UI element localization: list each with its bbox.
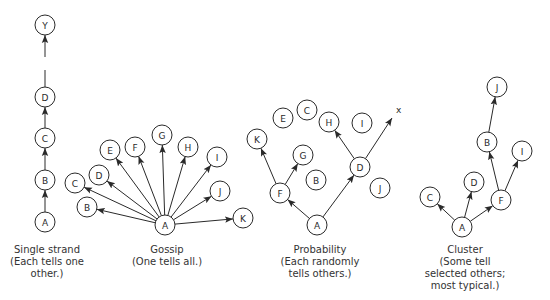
arrow-edge-A-to-F bbox=[470, 206, 493, 222]
node-label: C bbox=[42, 134, 48, 144]
node-label: I bbox=[521, 147, 524, 157]
node-label: B bbox=[313, 176, 319, 186]
arrow-edge-D-to-H bbox=[335, 130, 355, 159]
node-c: C bbox=[420, 187, 440, 207]
caption-line: Single strand bbox=[10, 244, 84, 256]
caption-line: tells others.) bbox=[281, 268, 360, 280]
caption-single-strand: Single strand(Each tells oneother.) bbox=[10, 244, 84, 280]
node-label: F bbox=[277, 189, 282, 199]
node-j: J bbox=[210, 181, 230, 201]
node-d: D bbox=[350, 157, 370, 177]
node-label: D bbox=[42, 93, 49, 103]
node-i: I bbox=[207, 147, 227, 167]
caption-line: selected others; bbox=[425, 268, 506, 280]
node-k: K bbox=[247, 129, 267, 149]
node-label: D bbox=[471, 178, 478, 188]
node-f: F bbox=[491, 190, 511, 210]
node-label: B bbox=[42, 176, 48, 186]
caption-line: other.) bbox=[10, 268, 84, 280]
caption-probability: Probability(Each randomlytells others.) bbox=[281, 244, 360, 280]
node-b: B bbox=[477, 132, 497, 152]
node-f: F bbox=[125, 137, 145, 157]
node-b: B bbox=[35, 170, 55, 190]
node-j: J bbox=[487, 77, 507, 97]
node-label: D bbox=[96, 171, 103, 181]
node-d: D bbox=[464, 172, 484, 192]
arrow-edge-A-to-D bbox=[323, 175, 354, 217]
node-label: H bbox=[326, 118, 333, 128]
arrow-edge-A-to-J bbox=[174, 196, 212, 219]
node-g: G bbox=[152, 125, 172, 145]
node-label: C bbox=[427, 193, 433, 203]
node-j: J bbox=[370, 178, 390, 198]
node-f: F bbox=[270, 183, 290, 203]
caption-line: (One tells all.) bbox=[132, 256, 202, 268]
arrow-edge-F-to-B bbox=[489, 152, 498, 191]
node-e: E bbox=[273, 108, 293, 128]
node-label: J bbox=[495, 83, 499, 93]
arrow-edge-F-to-I bbox=[505, 160, 518, 191]
node-h: H bbox=[319, 112, 339, 132]
caption-line: Gossip bbox=[132, 244, 202, 256]
arrow-edge-A-to-E bbox=[116, 158, 159, 217]
node-h: H bbox=[178, 137, 198, 157]
arrow-edge-A-to-F bbox=[288, 200, 310, 219]
node-label: B bbox=[484, 138, 490, 148]
node-a: A bbox=[307, 215, 327, 235]
caption-gossip: Gossip(One tells all.) bbox=[132, 244, 202, 268]
arrow-edge-A-to-F bbox=[139, 156, 162, 215]
node-label: D bbox=[357, 163, 364, 173]
node-b: B bbox=[306, 170, 326, 190]
panel-probability: AFKGECHIBDJx bbox=[247, 100, 402, 235]
node-label: A bbox=[162, 221, 169, 231]
caption-line: Cluster bbox=[425, 244, 506, 256]
node-y: Y bbox=[35, 15, 55, 35]
panel-cluster: ACDFBJI bbox=[420, 77, 532, 237]
node-e: E bbox=[100, 140, 120, 160]
node-k: K bbox=[233, 208, 253, 228]
caption-line: Probability bbox=[281, 244, 360, 256]
node-a: A bbox=[452, 217, 472, 237]
node-d: D bbox=[35, 87, 55, 107]
node-label: B bbox=[84, 203, 90, 213]
node-c: C bbox=[297, 100, 317, 120]
caption-cluster: Cluster(Some tellselected others;most ty… bbox=[425, 244, 506, 292]
node-label: A bbox=[314, 221, 321, 231]
caption-line: (Each randomly bbox=[281, 256, 360, 268]
node-label: E bbox=[280, 114, 286, 124]
node-label: C bbox=[72, 179, 78, 189]
node-b: B bbox=[77, 197, 97, 217]
arrow-edge-F-to-G bbox=[285, 164, 298, 185]
node-label: I bbox=[361, 119, 364, 129]
node-a: A bbox=[35, 212, 55, 232]
arrow-edge-A-to-K bbox=[175, 219, 233, 224]
node-label: F bbox=[498, 196, 503, 206]
node-a: A bbox=[155, 215, 175, 235]
arrow-edge-F-to-K bbox=[261, 148, 276, 184]
caption-line: (Some tell bbox=[425, 256, 506, 268]
node-d: D bbox=[89, 165, 109, 185]
node-label: I bbox=[216, 153, 219, 163]
node-i: I bbox=[512, 141, 532, 161]
panel-single-strand: YDCBA bbox=[35, 15, 55, 232]
node-label: G bbox=[159, 131, 166, 141]
node-label: A bbox=[459, 223, 466, 233]
node-label: A bbox=[42, 218, 49, 228]
node-c: C bbox=[65, 173, 85, 193]
node-label: C bbox=[304, 106, 310, 116]
node-i: I bbox=[352, 113, 372, 133]
arrow-edge-A-to-C bbox=[437, 204, 454, 220]
arrow-edge-A-to-G bbox=[162, 145, 164, 215]
arrow-edge-A-to-D bbox=[465, 192, 472, 218]
node-label: J bbox=[378, 184, 382, 194]
node-label: J bbox=[218, 187, 222, 197]
arrow-edge-B-to-J bbox=[489, 97, 495, 132]
caption-line: (Each tells one bbox=[10, 256, 84, 268]
node-label: G bbox=[300, 151, 307, 161]
arrow-edge-A-to-H bbox=[168, 157, 185, 216]
node-label: F bbox=[132, 143, 137, 153]
node-g: G bbox=[293, 145, 313, 165]
node-label: E bbox=[107, 146, 113, 156]
panel-gossip: ABCDEFGHIJK bbox=[65, 125, 253, 235]
node-c: C bbox=[35, 128, 55, 148]
